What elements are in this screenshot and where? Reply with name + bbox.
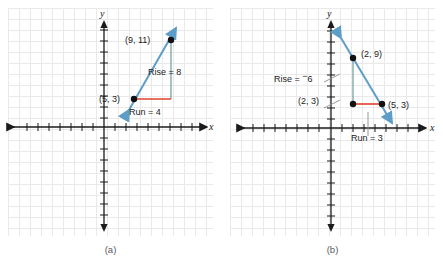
point-label-2-9: (2, 9) bbox=[361, 50, 382, 59]
x-axis-label-a: x bbox=[209, 122, 213, 132]
y-axis-a bbox=[100, 20, 108, 232]
rise-label-b-text: Rise = bbox=[274, 74, 302, 84]
point-label-5-3: (5, 3) bbox=[99, 95, 120, 104]
point-label-9-11: (9, 11) bbox=[125, 36, 150, 45]
point-label-5-3: (5, 3) bbox=[388, 101, 409, 110]
point-label-2-3: (2, 3) bbox=[298, 97, 319, 106]
point-9-11 bbox=[168, 37, 174, 43]
y-axis-label-b: y bbox=[327, 9, 331, 19]
x-axis-a bbox=[10, 123, 207, 131]
rise-label-a: Rise = 8 bbox=[148, 68, 181, 77]
figure-root: y x (9, 11) (5, 3) Rise = 8 Run = 4 (a) bbox=[0, 0, 443, 268]
panel-caption-a: (a) bbox=[0, 244, 221, 255]
point-5-3 bbox=[131, 96, 137, 102]
x-axis-b bbox=[240, 124, 426, 132]
rise-label-b: Rise = −6 bbox=[274, 72, 313, 84]
x-axis-label-b: x bbox=[430, 123, 434, 133]
plot-b bbox=[222, 0, 443, 268]
panel-a: y x (9, 11) (5, 3) Rise = 8 Run = 4 (a) bbox=[0, 0, 221, 268]
point-2-9 bbox=[350, 55, 356, 61]
panel-b: y x (2, 9) (2, 3) (5, 3) Rise = −6 Run =… bbox=[222, 0, 443, 268]
leader-point-2-3-b bbox=[324, 100, 340, 108]
plot-a bbox=[0, 0, 221, 268]
run-label-a: Run = 4 bbox=[129, 108, 161, 117]
panel-caption-b: (b) bbox=[222, 244, 443, 255]
y-axis-label-a: y bbox=[100, 9, 104, 19]
point-5-3 bbox=[379, 101, 385, 107]
run-label-b: Run = 3 bbox=[351, 134, 383, 143]
rise-label-b-value: 6 bbox=[308, 74, 313, 84]
y-axis-b bbox=[327, 20, 335, 232]
point-2-3 bbox=[350, 101, 356, 107]
